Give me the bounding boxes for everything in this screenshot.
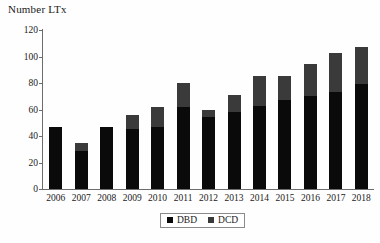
bar-segment-dcd[interactable] [75, 143, 88, 151]
bar-segment-dcd[interactable] [151, 107, 164, 127]
bar-segment-dbd[interactable] [100, 127, 113, 189]
bar-segment-dbd[interactable] [49, 127, 62, 189]
legend-label-dcd: DCD [218, 215, 238, 225]
x-tick-label: 2018 [349, 191, 374, 207]
bar-stack[interactable] [304, 64, 317, 189]
bar-stack[interactable] [253, 76, 266, 189]
chart-legend: DBD DCD [160, 213, 245, 228]
bar-group[interactable] [94, 30, 119, 189]
y-tick-label: 80 [8, 78, 38, 88]
bar-group[interactable] [43, 30, 68, 189]
x-tick-label: 2010 [145, 191, 170, 207]
bar-stack[interactable] [329, 53, 342, 189]
bar-group[interactable] [145, 30, 170, 189]
bar-group[interactable] [196, 30, 221, 189]
y-tick-label: 120 [8, 25, 38, 35]
x-tick-label: 2016 [298, 191, 323, 207]
x-tick-label: 2011 [170, 191, 195, 207]
bar-segment-dbd[interactable] [278, 100, 291, 189]
bar-segment-dbd[interactable] [177, 107, 190, 189]
page-title: Number LTx [8, 3, 67, 15]
bar-segment-dbd[interactable] [151, 127, 164, 189]
bar-stack[interactable] [151, 107, 164, 189]
bar-stack[interactable] [202, 110, 215, 189]
bar-segment-dbd[interactable] [75, 151, 88, 189]
y-tick-label: 60 [8, 105, 38, 115]
x-tick-label: 2014 [247, 191, 272, 207]
legend-label-dbd: DBD [177, 215, 197, 225]
bar-group[interactable] [298, 30, 323, 189]
bar-segment-dcd[interactable] [278, 76, 291, 100]
bar-segment-dcd[interactable] [304, 64, 317, 96]
bar-group[interactable] [68, 30, 93, 189]
bar-stack[interactable] [355, 47, 368, 189]
bar-segment-dbd[interactable] [202, 117, 215, 189]
bar-stack[interactable] [100, 127, 113, 189]
x-tick-label: 2015 [272, 191, 297, 207]
gray-square-icon [208, 217, 214, 223]
bar-segment-dcd[interactable] [253, 76, 266, 105]
bar-group[interactable] [119, 30, 144, 189]
bar-stack[interactable] [177, 83, 190, 189]
bar-segment-dcd[interactable] [329, 53, 342, 93]
bar-group[interactable] [247, 30, 272, 189]
bar-group[interactable] [349, 30, 374, 189]
bar-series-container [43, 30, 374, 189]
bar-segment-dbd[interactable] [355, 84, 368, 189]
x-axis-labels: 2006200720082009201020112012201320142015… [43, 191, 374, 207]
x-tick-label: 2006 [43, 191, 68, 207]
bar-stack[interactable] [49, 127, 62, 189]
x-tick-label: 2012 [196, 191, 221, 207]
x-tick-label: 2009 [119, 191, 144, 207]
bar-segment-dcd[interactable] [355, 47, 368, 84]
bar-group[interactable] [323, 30, 348, 189]
y-tick-label: 20 [8, 158, 38, 168]
bar-segment-dcd[interactable] [126, 115, 139, 130]
bar-stack[interactable] [75, 143, 88, 189]
x-axis-line [42, 189, 374, 190]
legend-item-dbd: DBD [167, 215, 197, 225]
bar-stack[interactable] [126, 115, 139, 189]
y-tick-label: 0 [8, 184, 38, 194]
bar-segment-dbd[interactable] [126, 129, 139, 189]
black-square-icon [167, 217, 173, 223]
x-tick-label: 2008 [94, 191, 119, 207]
x-tick-label: 2007 [68, 191, 93, 207]
bar-group[interactable] [221, 30, 246, 189]
legend-item-dcd: DCD [208, 215, 238, 225]
chart-root: Number LTx 120100806040200 2006200720082… [0, 0, 380, 243]
bar-group[interactable] [170, 30, 195, 189]
bar-segment-dbd[interactable] [304, 96, 317, 189]
bar-segment-dcd[interactable] [202, 110, 215, 118]
bar-segment-dbd[interactable] [253, 106, 266, 189]
bar-stack[interactable] [228, 95, 241, 189]
bar-segment-dcd[interactable] [228, 95, 241, 112]
bar-segment-dcd[interactable] [177, 83, 190, 107]
y-tick-label: 100 [8, 52, 38, 62]
bar-stack[interactable] [278, 76, 291, 189]
y-tick-label: 40 [8, 131, 38, 141]
x-tick-label: 2017 [323, 191, 348, 207]
bar-segment-dbd[interactable] [329, 92, 342, 189]
bar-segment-dbd[interactable] [228, 112, 241, 189]
x-tick-label: 2013 [221, 191, 246, 207]
bar-group[interactable] [272, 30, 297, 189]
